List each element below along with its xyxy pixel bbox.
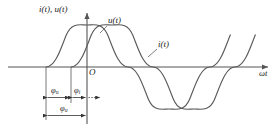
phi-i-label: φi bbox=[74, 86, 80, 96]
voltage-curve-tail bbox=[210, 35, 231, 67]
origin-label: O bbox=[89, 68, 96, 77]
phi-difference-label: φu bbox=[60, 104, 68, 114]
current-curve-tail bbox=[235, 35, 256, 67]
current-curve-label: i(t) bbox=[158, 40, 169, 49]
phi-u-subscript: u bbox=[56, 89, 59, 95]
phi-i-subscript: i bbox=[79, 89, 81, 95]
y-axis-label: i(t), u(t) bbox=[39, 5, 68, 14]
x-axis-label: ωt bbox=[259, 69, 267, 78]
waveform-figure: i(t), u(t) ωt O u(t) i(t) φu φi φu bbox=[0, 0, 280, 133]
phi-subscript: u bbox=[65, 107, 68, 113]
phi-u-label: φu bbox=[51, 86, 59, 96]
leader-line-current bbox=[148, 49, 157, 57]
waveform-canvas bbox=[0, 0, 280, 133]
voltage-curve-label: u(t) bbox=[108, 16, 121, 25]
